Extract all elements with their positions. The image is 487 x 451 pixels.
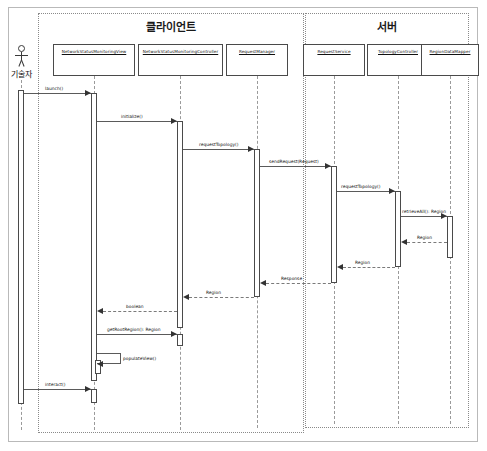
message-label-return-boolean: boolean: [126, 304, 144, 310]
message-line-request-topology-server: [337, 191, 395, 192]
message-label-launch: launch(): [45, 86, 63, 92]
message-arrow-request-topology-client: [248, 146, 254, 152]
message-arrow-return-region-manager: [183, 294, 189, 300]
message-arrow-return-region-topology: [337, 264, 343, 270]
message-arrow-request-topology-server: [389, 188, 395, 194]
message-line-request-topology-client: [183, 149, 254, 150]
message-line-return-region-manager: [189, 297, 254, 298]
lifeline-box-requestmanager[interactable]: RequestManager: [226, 44, 288, 76]
message-label-initialize: initialize(): [121, 114, 143, 120]
activation-controller-getrootregion: [177, 334, 183, 346]
lifeline-box-topologycontroller[interactable]: TopologyController: [367, 44, 429, 76]
actor-head-icon: [18, 45, 25, 52]
partition-client-label: 클라이언트: [39, 18, 303, 34]
message-label-populate-view: populateView(): [123, 356, 156, 362]
message-label-interact: interact(): [45, 382, 65, 388]
partition-server-label: 서버: [306, 18, 468, 34]
lifeline-box-topologycontroller-label: TopologyController: [378, 49, 418, 55]
message-arrow-launch: [85, 90, 91, 96]
message-label-request-topology-client: requestTopology(): [199, 142, 239, 148]
lifeline-box-requestservice[interactable]: RequestService: [303, 44, 365, 76]
message-label-request-topology-server: requestTopology(): [341, 184, 381, 190]
message-line-get-root-region: [97, 334, 177, 335]
message-arrow-populate-view: [97, 361, 103, 367]
lifeline-box-controller[interactable]: NetworkStatusMonitoringController: [138, 44, 223, 76]
message-arrow-get-root-region: [171, 331, 177, 337]
message-line-send-request: [260, 166, 331, 167]
lifeline-box-requestservice-label: RequestService: [317, 49, 350, 55]
lifeline-box-regiondatamapper-label: RegionDataMapper: [430, 49, 471, 55]
message-line-launch: [24, 93, 91, 94]
message-arrow-interact: [85, 386, 91, 392]
message-arrow-initialize: [171, 118, 177, 124]
message-label-send-request: sendRequest(Request): [269, 159, 319, 165]
lifeline-box-controller-label: NetworkStatusMonitoringController: [143, 49, 218, 55]
message-label-return-region-topology: Region: [355, 260, 370, 266]
message-label-return-region-manager: Region: [206, 290, 221, 296]
message-label-return-region-mapper: Region: [417, 235, 432, 241]
activation-view-interact: [91, 389, 97, 403]
message-line-return-boolean: [103, 311, 177, 312]
message-arrow-return-region-mapper: [401, 239, 407, 245]
activation-actor: [18, 90, 24, 404]
activation-view: [91, 93, 97, 381]
message-line-interact: [24, 389, 91, 390]
message-line-initialize: [97, 121, 177, 122]
actor-label: 기술자: [9, 68, 34, 79]
message-label-return-response: Response: [281, 276, 302, 282]
actor-arms-icon: [15, 55, 28, 56]
actor-leg-right-icon: [21, 60, 25, 67]
message-label-get-root-region: getRootRegion(): Region: [107, 327, 161, 333]
message-label-retrieve-all: retrieveAll(): Region: [402, 209, 446, 215]
activation-topologycontroller: [395, 191, 401, 267]
lifeline-box-view[interactable]: NetworkStatusMonitoringView: [53, 44, 135, 76]
message-arrow-return-response: [260, 280, 266, 286]
lifeline-box-requestmanager-label: RequestManager: [239, 49, 275, 55]
message-line-return-response: [266, 283, 331, 284]
message-arrow-send-request: [325, 163, 331, 169]
diagram-frame: 클라이언트 서버 기술자 NetworkStatusMonitoringView…: [8, 7, 478, 442]
lifeline-box-regiondatamapper[interactable]: RegionDataMapper: [421, 44, 479, 76]
sequence-diagram-canvas: 클라이언트 서버 기술자 NetworkStatusMonitoringView…: [0, 0, 487, 451]
message-arrow-return-boolean: [97, 308, 103, 314]
message-line-return-region-topology: [343, 267, 395, 268]
activation-regiondatamapper: [447, 216, 453, 258]
activation-requestmanager: [254, 149, 260, 297]
message-line-return-region-mapper: [407, 242, 447, 243]
partition-client: 클라이언트: [38, 13, 304, 433]
lifeline-box-view-label: NetworkStatusMonitoringView: [62, 49, 127, 55]
